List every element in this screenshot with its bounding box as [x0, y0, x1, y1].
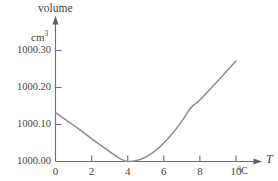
x-tick-label: 6	[149, 166, 179, 177]
x-tick-label: 4	[113, 166, 143, 177]
volume-curve	[56, 61, 237, 162]
y-axis-arrow-icon	[52, 16, 58, 25]
y-tick-label: 1000.10	[0, 119, 51, 130]
y-axis-group	[52, 16, 58, 162]
volume-temperature-chart: volume cm3 1000.001000.101000.201000.30 …	[0, 0, 278, 181]
x-axis-title: T	[266, 153, 273, 165]
y-axis-unit-exponent: 3	[44, 29, 48, 38]
y-axis-unit: cm3	[31, 30, 48, 43]
x-axis-arrow-icon	[254, 158, 263, 164]
y-axis-title: volume	[38, 3, 73, 15]
y-axis-unit-text: cm	[31, 31, 44, 43]
x-axis-unit: °C	[237, 166, 248, 176]
y-tick-label: 1000.30	[0, 45, 51, 56]
x-tick-label: 8	[185, 166, 215, 177]
x-axis-group	[56, 158, 263, 164]
x-axis-tick-marks	[92, 156, 236, 162]
x-tick-label: 0	[41, 166, 71, 177]
x-tick-label: 2	[77, 166, 107, 177]
y-tick-label: 1000.20	[0, 82, 51, 93]
